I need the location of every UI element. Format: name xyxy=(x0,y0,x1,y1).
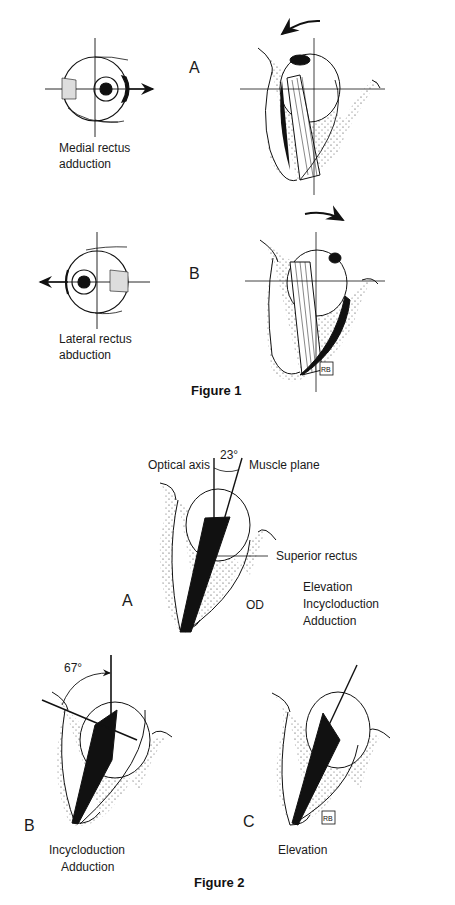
angle-23-label: 23° xyxy=(220,447,238,463)
eye-front-view-a xyxy=(45,38,153,137)
superior-rectus-label: Superior rectus xyxy=(276,548,357,564)
angle-67-label: 67° xyxy=(64,660,82,676)
figure-1-caption: Figure 1 xyxy=(191,383,242,398)
svg-text:RB: RB xyxy=(321,366,331,373)
orbit-view-1a xyxy=(240,21,385,195)
fig2-panel-b-letter: B xyxy=(24,817,35,835)
fig1-panel-b-letter: B xyxy=(189,265,200,283)
fig2c-action-1: Elevation xyxy=(278,842,327,858)
optical-axis-label: Optical axis xyxy=(148,457,210,473)
fig2a-action-1: Elevation xyxy=(303,579,352,595)
fig1b-label-line2: abduction xyxy=(59,347,111,363)
fig2b-action-2: Adduction xyxy=(61,859,114,875)
fig2b-action-1: Incycloduction xyxy=(49,842,125,858)
fig1a-label-line1: Medial rectus xyxy=(59,140,130,156)
fig1b-label-line1: Lateral rectus xyxy=(59,331,132,347)
fig2-panel-c-letter: C xyxy=(243,813,255,831)
eye-front-view-b xyxy=(40,232,150,329)
orbit-view-2b xyxy=(42,655,172,826)
fig1-panel-a-letter: A xyxy=(189,59,200,77)
muscle-plane-label: Muscle plane xyxy=(249,457,320,473)
svg-text:RB: RB xyxy=(323,815,333,822)
fig2a-action-2: Incycloduction xyxy=(303,596,379,612)
fig1a-label-line2: adduction xyxy=(59,156,111,172)
fig2-panel-a-letter: A xyxy=(122,592,133,610)
fig2a-action-3: Adduction xyxy=(303,613,356,629)
od-label: OD xyxy=(246,597,264,613)
orbit-view-2c: RB xyxy=(272,665,390,825)
figure-2-caption: Figure 2 xyxy=(194,875,245,890)
orbit-view-1b: RB xyxy=(245,213,385,392)
